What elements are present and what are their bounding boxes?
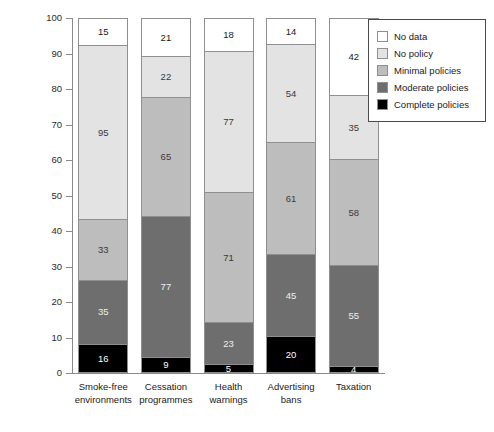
bar-segment-value: 18: [223, 30, 234, 40]
legend-label: No policy: [394, 48, 433, 59]
bar-segment-value: 4: [351, 366, 356, 373]
y-axis-tick-label: 40: [28, 225, 62, 236]
x-axis-label-cessation-programmes: Cessationprogrammes: [130, 381, 202, 406]
legend-item-no-data[interactable]: No data: [377, 28, 476, 45]
bar-segment-no-data[interactable]: 14: [266, 18, 316, 44]
bar-segment-value: 77: [223, 117, 234, 127]
legend-swatch: [377, 99, 388, 110]
x-axis-label-smoke-free-environments: Smoke-freeenvironments: [67, 381, 139, 406]
y-axis-tick-label: 10: [28, 332, 62, 343]
x-axis-label-line: Taxation: [318, 381, 390, 394]
y-axis-tick-label: 80: [28, 83, 62, 94]
bar-segment-value: 21: [161, 33, 172, 43]
bar-segment-no-data[interactable]: 15: [78, 18, 128, 45]
bar-segment-complete-policies[interactable]: 5: [204, 364, 254, 373]
bar-segment-moderate-policies[interactable]: 35: [78, 280, 128, 344]
legend-item-complete-policies[interactable]: Complete policies: [377, 96, 476, 113]
y-axis-tick-label: 30: [28, 261, 62, 272]
y-axis-tick: [66, 373, 72, 374]
bar-segment-value: 95: [98, 128, 109, 138]
legend-item-moderate-policies[interactable]: Moderate policies: [377, 79, 476, 96]
x-axis-label-line: Advertising: [255, 381, 327, 394]
bar-segment-value: 71: [223, 253, 234, 263]
x-axis-label-advertising-bans: Advertisingbans: [255, 381, 327, 406]
legend-label: Minimal policies: [394, 65, 461, 76]
legend-label: No data: [394, 31, 427, 42]
bar-segment-value: 65: [161, 152, 172, 162]
bar-segment-value: 58: [348, 208, 359, 218]
bar-segment-no-policy[interactable]: 22: [141, 56, 191, 96]
stacked-bar-chart: % of countries 0102030405060708090100 15…: [0, 0, 494, 432]
bar-segment-complete-policies[interactable]: 4: [329, 366, 379, 373]
x-axis-label-taxation: Taxation: [318, 381, 390, 394]
y-axis-tick-label: 20: [28, 296, 62, 307]
bar-segment-value: 54: [286, 89, 297, 99]
x-axis-label-line: warnings: [193, 394, 265, 407]
bar-segment-no-policy[interactable]: 95: [78, 45, 128, 219]
bar-segment-value: 5: [226, 364, 231, 373]
bar-segment-moderate-policies[interactable]: 55: [329, 265, 379, 366]
bar-segment-value: 35: [348, 123, 359, 133]
bar-segment-value: 22: [161, 72, 172, 82]
x-axis-label-line: Smoke-free: [67, 381, 139, 394]
bar-segment-value: 55: [348, 311, 359, 321]
bar-segment-value: 45: [286, 291, 297, 301]
chart-legend: No dataNo policyMinimal policiesModerate…: [368, 19, 486, 122]
y-axis-tick-label: 0: [28, 367, 62, 378]
bar-segment-minimal-policies[interactable]: 61: [266, 142, 316, 254]
y-axis-tick-label: 50: [28, 190, 62, 201]
legend-item-no-policy[interactable]: No policy: [377, 45, 476, 62]
bar-segment-value: 35: [98, 307, 109, 317]
bar-advertising-bans[interactable]: 1454614520: [266, 18, 316, 373]
x-axis-label-line: environments: [67, 394, 139, 407]
x-axis-label-line: bans: [255, 394, 327, 407]
bar-segment-no-data[interactable]: 21: [141, 18, 191, 56]
bar-segment-minimal-policies[interactable]: 65: [141, 97, 191, 216]
bar-segment-no-policy[interactable]: 77: [204, 51, 254, 192]
y-axis-tick-label: 70: [28, 119, 62, 130]
bar-segment-value: 61: [286, 194, 297, 204]
bar-cessation-programmes[interactable]: 212265779: [141, 18, 191, 373]
legend-item-minimal-policies[interactable]: Minimal policies: [377, 62, 476, 79]
bar-segment-moderate-policies[interactable]: 77: [141, 216, 191, 357]
x-axis-label-line: programmes: [130, 394, 202, 407]
plot-area: 1595333516212265779187771235145461452042…: [72, 18, 385, 373]
legend-swatch: [377, 31, 388, 42]
legend-swatch: [377, 48, 388, 59]
bar-segment-value: 77: [161, 282, 172, 292]
y-axis-tick-label: 60: [28, 154, 62, 165]
bar-segment-complete-policies[interactable]: 20: [266, 336, 316, 373]
y-axis-tick-label: 100: [28, 12, 62, 23]
legend-swatch: [377, 82, 388, 93]
bar-segment-value: 42: [348, 52, 359, 62]
bar-smoke-free-environments[interactable]: 1595333516: [78, 18, 128, 373]
bar-segment-complete-policies[interactable]: 16: [78, 344, 128, 373]
x-axis-line: [72, 373, 385, 374]
legend-label: Moderate policies: [394, 82, 468, 93]
bar-segment-value: 23: [223, 339, 234, 349]
bar-segment-minimal-policies[interactable]: 71: [204, 192, 254, 322]
y-axis-tick-label: 90: [28, 48, 62, 59]
bar-segment-moderate-policies[interactable]: 45: [266, 254, 316, 336]
x-axis-label-line: Health: [193, 381, 265, 394]
bar-segment-value: 20: [286, 350, 297, 360]
bar-segment-value: 14: [286, 27, 297, 37]
legend-swatch: [377, 65, 388, 76]
bar-segment-no-policy[interactable]: 54: [266, 44, 316, 143]
bar-segment-complete-policies[interactable]: 9: [141, 357, 191, 373]
bar-segment-minimal-policies[interactable]: 58: [329, 159, 379, 265]
bar-segment-moderate-policies[interactable]: 23: [204, 322, 254, 364]
bar-segment-no-data[interactable]: 18: [204, 18, 254, 51]
bar-segment-value: 33: [98, 245, 109, 255]
x-axis-label-line: Cessation: [130, 381, 202, 394]
legend-label: Complete policies: [394, 99, 469, 110]
x-axis-label-health-warnings: Healthwarnings: [193, 381, 265, 406]
bar-segment-minimal-policies[interactable]: 33: [78, 219, 128, 279]
bar-segment-value: 16: [98, 354, 109, 364]
bar-segment-value: 9: [163, 360, 168, 370]
bar-segment-value: 15: [98, 27, 109, 37]
bar-health-warnings[interactable]: 187771235: [204, 18, 254, 373]
